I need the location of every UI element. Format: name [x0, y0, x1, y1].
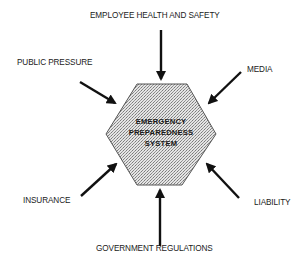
label-insurance: INSURANCE — [23, 197, 70, 205]
arrow-public-pressure — [80, 82, 115, 103]
center-label-line-1: EMERGENCY — [106, 116, 216, 127]
center-label-line-3: SYSTEM — [106, 138, 216, 149]
label-public-pressure: PUBLIC PRESSURE — [17, 59, 92, 67]
center-label: EMERGENCY PREPAREDNESS SYSTEM — [106, 116, 216, 149]
label-government-regulations: GOVERNMENT REGULATIONS — [96, 245, 213, 253]
arrow-insurance — [81, 164, 116, 196]
arrow-media — [209, 72, 241, 103]
center-label-line-2: PREPAREDNESS — [106, 127, 216, 138]
label-employee-health-and-safety: EMPLOYEE HEALTH AND SAFETY — [90, 12, 220, 20]
label-liability: LIABILITY — [254, 199, 290, 207]
arrow-liability — [207, 164, 239, 198]
label-media: MEDIA — [247, 66, 272, 74]
